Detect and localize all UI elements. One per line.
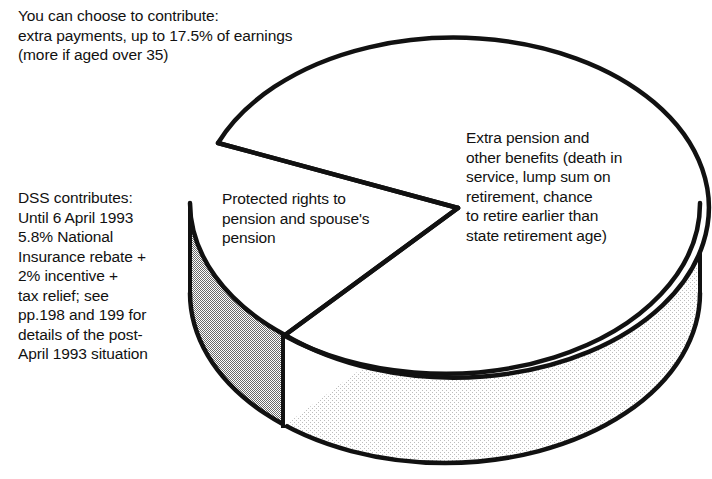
callout-employee-contribution: You can choose to contribute: extra paym… [18,6,378,65]
diagram-canvas: You can choose to contribute: extra paym… [0,0,712,479]
callout-dss-contribution: DSS contributes: Until 6 April 1993 5.8%… [18,188,208,364]
callout-extra-pension: Extra pension and other benefits (death … [466,128,681,245]
callout-protected-rights: Protected rights to pension and spouse's… [222,189,407,248]
